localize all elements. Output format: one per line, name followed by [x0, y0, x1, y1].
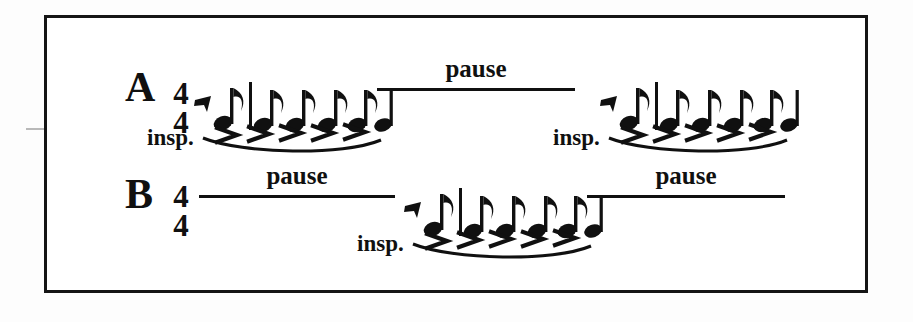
barline-a1: [249, 82, 252, 130]
accent-mark-1: [217, 128, 237, 142]
slur-arc-a1: [203, 138, 381, 151]
eighth-rest-icon: [600, 96, 617, 112]
accent-mark-4: [313, 126, 333, 140]
pause-group-b2: pause: [587, 163, 785, 198]
accent-mark-3: [491, 232, 511, 246]
accent-mark-3: [687, 126, 707, 140]
accent-slur-svg-b1: [413, 230, 603, 264]
pause-group-b1: pause: [199, 163, 395, 198]
barline-a2: [655, 82, 658, 130]
pause-group-a1: pause: [377, 56, 575, 91]
accent-mark-2: [249, 127, 269, 141]
insp-label-a1: insp.: [147, 126, 194, 149]
accent-slur-svg-a1: [203, 124, 393, 158]
accent-mark-1: [623, 128, 643, 142]
figure-border-frame: A 4 4 insp.: [44, 15, 868, 293]
insp-label-a2: insp.: [553, 126, 600, 149]
pause-line-b1: [199, 195, 395, 198]
accent-mark-5: [345, 125, 365, 139]
insp-label-b1: insp.: [357, 232, 404, 255]
accent-mark-4: [523, 232, 543, 246]
eighth-rest-icon: [404, 202, 421, 218]
accent-mark-1: [427, 234, 447, 248]
accent-mark-5: [751, 125, 771, 139]
pause-line-b2: [587, 195, 785, 198]
accent-mark-2: [655, 127, 675, 141]
accent-slur-b1: [413, 230, 603, 260]
time-signature-b: 4 4: [168, 182, 194, 241]
accent-slur-a2: [609, 124, 799, 154]
row-label-a: A: [125, 66, 155, 108]
figure-root: A 4 4 insp.: [0, 0, 913, 322]
accent-mark-3: [281, 126, 301, 140]
slur-arc-b1: [413, 244, 591, 257]
accent-slur-svg-a2: [609, 124, 799, 158]
eighth-rest-icon: [194, 96, 211, 112]
time-signature-b-numerator: 4: [168, 182, 194, 211]
row-label-b: B: [125, 173, 153, 215]
slur-arc-a2: [609, 138, 787, 151]
accent-mark-5: [555, 231, 575, 245]
accent-mark-2: [459, 233, 479, 247]
pause-label-a1: pause: [377, 56, 575, 81]
pause-line-a1: [377, 88, 575, 91]
barline-b1: [459, 188, 462, 236]
pause-label-b1: pause: [199, 163, 395, 188]
accent-slur-a1: [203, 124, 393, 154]
pause-label-b2: pause: [587, 163, 785, 188]
accent-mark-4: [719, 126, 739, 140]
time-signature-b-denominator: 4: [168, 211, 194, 240]
